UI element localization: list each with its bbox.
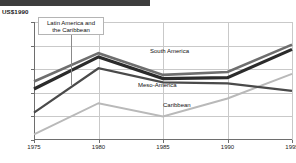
- x-tick-label: 1975: [27, 144, 40, 150]
- annotation-text: Latin America and the Caribbean: [39, 20, 103, 35]
- x-tick-label: 1995: [285, 144, 296, 150]
- chart-figure: US$1990 3 2503 0002 7502 5002 2502 000 1…: [0, 0, 296, 163]
- series-label-caribbean: Caribbean: [163, 102, 191, 108]
- x-tick-label: 1985: [156, 144, 169, 150]
- header-bar: [0, 0, 150, 6]
- x-tick-label: 1980: [92, 144, 105, 150]
- annotation-latin-america: Latin America and the Caribbean: [38, 17, 104, 35]
- x-tick-label: 1990: [221, 144, 234, 150]
- y-axis-unit-label: US$1990: [2, 8, 29, 15]
- annotation-text-line1: Latin America and: [47, 20, 95, 26]
- x-tick-mark: [34, 140, 35, 143]
- plot-area: 3 2503 0002 7502 5002 2502 000 197519801…: [34, 22, 292, 140]
- x-tick-mark: [99, 140, 100, 143]
- series-lines: [34, 22, 292, 140]
- x-tick-mark: [228, 140, 229, 143]
- x-tick-mark: [163, 140, 164, 143]
- annotation-text-line2: the Caribbean: [52, 27, 90, 33]
- vertical-gridline: [292, 22, 293, 140]
- annotation-leader-line: [71, 35, 72, 85]
- series-label-south-america: South America: [150, 48, 189, 54]
- series-label-meso-america: Meso-America: [138, 82, 177, 88]
- x-tick-mark: [292, 140, 293, 143]
